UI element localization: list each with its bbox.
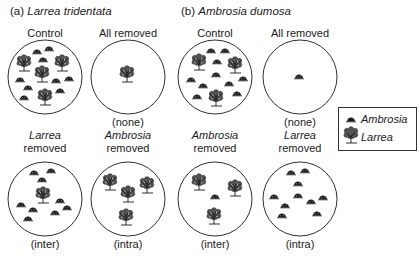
plot-a-all-removed [91,40,165,114]
plot-b-larrea-removed [263,162,337,236]
ambrosia-shrub-icon [346,118,356,122]
plot-a-control [8,40,82,114]
legend-ambrosia-label: Ambrosia [361,113,407,125]
plot-a-ambrosia-removed [91,162,165,236]
plot-a-larrea-removed [8,162,82,236]
plot-b-ambrosia-removed [178,162,252,236]
legend-icons [343,111,359,147]
legend-larrea-label: Larrea [361,131,393,143]
larrea-shrub-icon [344,127,358,143]
plot-b-control [178,40,252,114]
plot-b-all-removed [263,40,337,114]
legend: Ambrosia Larrea [338,107,417,151]
